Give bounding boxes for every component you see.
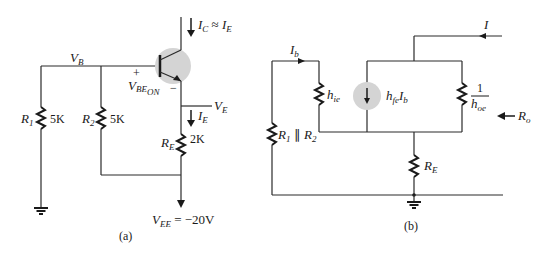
- re-value-a: 2K: [190, 132, 205, 146]
- vbe-minus: −: [170, 81, 177, 95]
- i-label: I: [483, 17, 489, 32]
- figure-a: VB R1 5K R2 5K: [20, 17, 232, 243]
- ro-label: Ro: [517, 108, 531, 125]
- vb-label: VB: [70, 50, 84, 67]
- r2-label: R2: [81, 111, 95, 128]
- resistor-r1-parallel-r2: [268, 61, 276, 195]
- ie-label: IE: [197, 108, 208, 125]
- caption-b: (b): [404, 219, 418, 233]
- hoe-numerator: 1: [477, 81, 483, 95]
- resistor-r1: [37, 66, 45, 207]
- r1-value: 5K: [50, 112, 65, 126]
- resistor-re-a: [177, 134, 185, 208]
- re-label-a: RE: [160, 135, 175, 152]
- r1-parallel-r2-label: R1 ∥ R2: [277, 127, 317, 144]
- resistor-re-b: [410, 132, 418, 195]
- ib-arrow-icon: [298, 58, 305, 64]
- vbe-on-label: VBEON: [128, 78, 160, 97]
- current-source-hfe-ib: [353, 61, 381, 132]
- hoe-denominator: hoe: [471, 96, 486, 113]
- ground-icon-a: [34, 208, 48, 214]
- ic-ie-label: IC ≈ IE: [197, 17, 232, 34]
- r1-label: R1: [20, 111, 33, 128]
- vee-label: VEE = −20V: [152, 212, 215, 229]
- ve-label: VE: [214, 98, 228, 115]
- i-arrow-icon: [479, 33, 486, 39]
- npn-transistor: [155, 17, 191, 134]
- circuit-diagram: VB R1 5K R2 5K: [0, 0, 543, 255]
- caption-a: (a): [119, 229, 132, 243]
- hfe-ib-label: hfeIb: [386, 88, 408, 105]
- hie-label: hie: [327, 87, 340, 104]
- ib-label: Ib: [289, 42, 299, 59]
- resistor-1-over-hoe: [458, 61, 466, 132]
- vee-arrow-icon: [177, 200, 185, 208]
- re-label-b: RE: [423, 158, 438, 175]
- r2-value: 5K: [110, 112, 125, 126]
- ground-icon-b: [407, 195, 421, 208]
- figure-b: Ib R1 ∥ R2 hie hfeIb I: [268, 17, 531, 233]
